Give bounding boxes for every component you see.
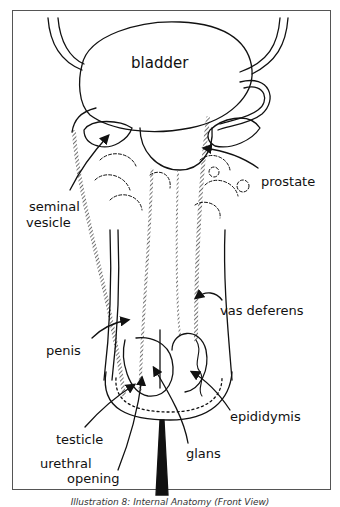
label-epididymis: epididymis <box>230 410 301 423</box>
label-vas-deferens: vas deferens <box>220 304 303 317</box>
label-penis: penis <box>46 344 81 357</box>
ureter-left <box>48 18 84 70</box>
ureter-right <box>240 18 288 74</box>
figure-caption: Illustration 8: Internal Anatomy (Front … <box>0 497 340 507</box>
label-seminal-vesicle-line1: seminal <box>29 200 80 213</box>
label-bladder: bladder <box>131 57 188 70</box>
label-glans: glans <box>186 447 221 460</box>
label-prostate: prostate <box>261 175 315 188</box>
label-seminal-vesicle-line2: vesicle <box>26 216 71 229</box>
label-testicle: testicle <box>56 433 103 446</box>
bladder-outline <box>80 22 253 132</box>
label-urethral-opening-line1: urethral <box>40 457 92 470</box>
label-urethral-opening-line2: opening <box>67 472 120 485</box>
